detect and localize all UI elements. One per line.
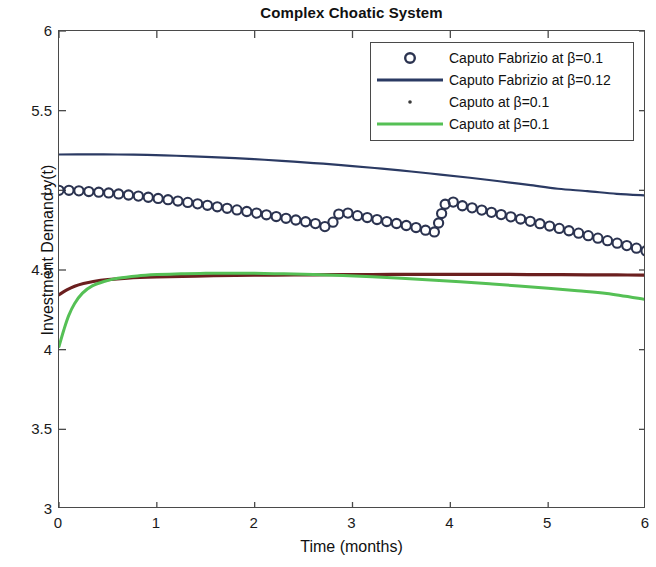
y-tick-label: 3.5 xyxy=(6,420,52,437)
chart-legend: Caputo Fabrizio at β=0.1Caputo Fabrizio … xyxy=(370,42,634,141)
legend-entry[interactable]: Caputo Fabrizio at β=0.12 xyxy=(371,69,633,91)
x-tick-label: 2 xyxy=(234,514,274,531)
chart-figure: Complex Choatic System Investment Demand… xyxy=(0,0,656,567)
y-axis-tick-labels: 33.544.555.56 xyxy=(0,30,52,508)
legend-entry[interactable]: Caputo at β=0.1 xyxy=(371,113,633,135)
legend-circle-marker xyxy=(371,47,449,69)
series-3 xyxy=(59,274,645,294)
series-2 xyxy=(59,154,645,195)
x-tick-label: 3 xyxy=(332,514,372,531)
legend-solid-line xyxy=(371,113,449,135)
x-axis-tick-labels: 0123456 xyxy=(58,514,645,536)
x-tick-label: 5 xyxy=(527,514,567,531)
legend-label: Caputo Fabrizio at β=0.1 xyxy=(449,50,603,66)
series-4 xyxy=(59,273,645,346)
series-1 xyxy=(59,186,645,256)
x-tick-label: 6 xyxy=(625,514,656,531)
chart-title: Complex Choatic System xyxy=(58,4,645,21)
legend-label: Caputo at β=0.1 xyxy=(449,94,549,110)
x-tick-label: 1 xyxy=(136,514,176,531)
y-tick-label: 5 xyxy=(6,181,52,198)
legend-label: Caputo at β=0.1 xyxy=(449,116,549,132)
y-tick-label: 5.5 xyxy=(6,101,52,118)
legend-solid-line xyxy=(371,69,449,91)
y-tick-label: 6 xyxy=(6,22,52,39)
legend-label: Caputo Fabrizio at β=0.12 xyxy=(449,72,611,88)
x-tick-label: 0 xyxy=(38,514,78,531)
legend-entry[interactable]: Caputo at β=0.1 xyxy=(371,91,633,113)
y-tick-label: 4.5 xyxy=(6,261,52,278)
x-tick-label: 4 xyxy=(429,514,469,531)
y-tick-label: 4 xyxy=(6,340,52,357)
legend-dot-marker xyxy=(371,91,449,113)
legend-entry[interactable]: Caputo Fabrizio at β=0.1 xyxy=(371,47,633,69)
x-axis-label: Time (months) xyxy=(58,538,645,556)
